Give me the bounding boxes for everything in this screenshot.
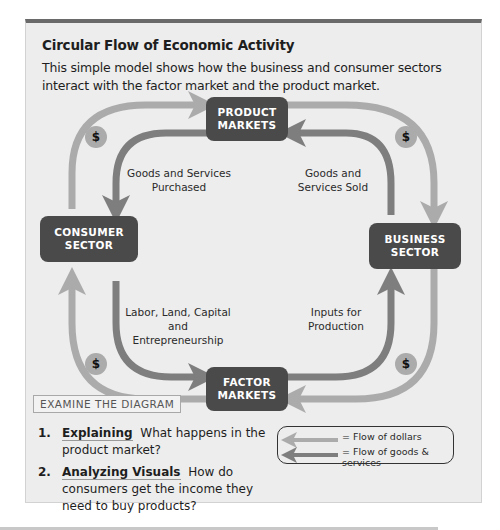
question-1: 1. Explaining What happens in the produc… bbox=[38, 425, 278, 459]
label-goods-sold: Goods and Services Sold bbox=[288, 166, 378, 194]
legend: = Flow of dollars = Flow of goods & serv… bbox=[277, 426, 454, 464]
question-2-keyword: Analyzing Visuals bbox=[62, 465, 181, 480]
node-factor-markets: FACTOR MARKETS bbox=[206, 367, 288, 411]
dollar-icon-top-right: $ bbox=[395, 126, 417, 148]
dollar-icon-top-left: $ bbox=[85, 126, 107, 148]
legend-goods: = Flow of goods & services bbox=[342, 446, 453, 468]
dollar-flow-product-to-business bbox=[284, 105, 434, 215]
node-business-sector: BUSINESS SECTOR bbox=[369, 223, 461, 269]
examine-heading: EXAMINE THE DIAGRAM bbox=[33, 395, 181, 413]
legend-dollars: = Flow of dollars bbox=[342, 431, 422, 442]
label-goods-purchased: Goods and Services Purchased bbox=[124, 166, 234, 194]
label-labor-land-capital: Labor, Land, Capital and Entrepreneurshi… bbox=[122, 305, 234, 347]
dollar-icon-bottom-left: $ bbox=[85, 353, 107, 375]
diagram-panel: Circular Flow of Economic Activity This … bbox=[25, 19, 482, 503]
question-1-keyword: Explaining bbox=[62, 426, 133, 441]
node-consumer-sector: CONSUMER SECTOR bbox=[40, 216, 138, 262]
question-2: 2. Analyzing Visuals How do consumers ge… bbox=[38, 464, 278, 515]
label-inputs-for-production: Inputs for Production bbox=[304, 305, 368, 333]
node-product-markets: PRODUCT MARKETS bbox=[206, 97, 288, 141]
dollar-icon-bottom-right: $ bbox=[395, 353, 417, 375]
